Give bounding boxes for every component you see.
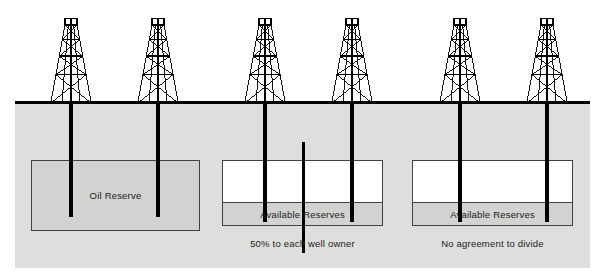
oil-derrick-well-5 (433, 12, 487, 104)
well-pipe-well-5 (458, 103, 462, 222)
diagram-canvas: Oil ReserveAvailable Reserves50% to each… (0, 0, 605, 277)
oil-derrick-well-3 (238, 12, 292, 104)
reserve-label-left: Oil Reserve (31, 190, 200, 201)
ownership-divider-line (302, 142, 305, 253)
reserve-label-right: Available Reserves (412, 209, 573, 220)
well-pipe-well-4 (350, 103, 354, 222)
well-pipe-well-6 (545, 103, 549, 222)
ground-surface-line (15, 101, 590, 104)
well-pipe-well-3 (263, 103, 267, 222)
oil-derrick-well-1 (44, 12, 98, 104)
oil-derrick-well-2 (131, 12, 185, 104)
panel-caption-middle: 50% to each well owner (222, 238, 383, 249)
panel-caption-right: No agreement to divide (412, 238, 573, 249)
reserve-label-middle: Available Reserves (222, 209, 383, 220)
oil-derrick-well-4 (325, 12, 379, 104)
oil-derrick-well-6 (520, 12, 574, 104)
